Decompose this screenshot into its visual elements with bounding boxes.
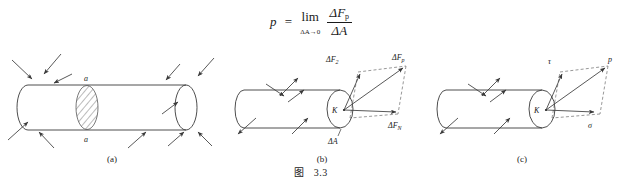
- force-normal-label-b: ΔFN: [387, 121, 403, 131]
- formula-variable: p: [270, 14, 277, 29]
- cross-section-hatched-a: [76, 86, 98, 130]
- panel-c-drawing: K τ p σ: [424, 52, 620, 152]
- numerator-subscript: p: [345, 12, 349, 21]
- force-parallel-label-b: ΔFp: [391, 53, 405, 63]
- area-label-b: ΔA: [327, 137, 338, 146]
- normal-stress-label-c: σ: [588, 121, 593, 130]
- panel-a-drawing: a a: [6, 52, 218, 152]
- section-label-top: a: [84, 74, 88, 83]
- panel-b-drawing: K ΔA ΔF2 ΔFp ΔFN: [222, 52, 422, 152]
- limit-subscript: ΔA→0: [300, 28, 320, 36]
- shear-stress-label-c: τ: [548, 57, 552, 66]
- numerator-symbol: ΔF: [330, 5, 346, 20]
- vector-resultant-stress-c: [546, 68, 605, 110]
- panel-a: a a (a): [6, 52, 218, 164]
- vector-normal-b: [344, 110, 396, 112]
- figure-page: p = lim ΔA→0 ΔFp ΔA: [0, 0, 622, 188]
- force-arrows-c: [440, 78, 510, 134]
- fraction-denominator: ΔA: [327, 23, 353, 39]
- panel-a-caption: (a): [6, 154, 218, 164]
- area-leader-line-b: [338, 129, 341, 136]
- point-label-k-c: K: [533, 106, 540, 115]
- limit-operator: lim ΔA→0: [300, 10, 320, 36]
- force-arrows-b: [238, 78, 308, 134]
- formula-fraction: ΔFp ΔA: [327, 6, 353, 39]
- panel-b: K ΔA ΔF2 ΔFp ΔFN: [222, 52, 422, 164]
- vector-resultant-b: [344, 68, 403, 110]
- resultant-stress-label-c: p: [607, 55, 612, 64]
- fraction-numerator: ΔFp: [327, 6, 353, 23]
- force-arrows-a: [8, 54, 214, 148]
- panel-c-caption: (c): [424, 154, 620, 164]
- formula-equals: =: [285, 14, 292, 29]
- panel-b-caption: (b): [222, 154, 422, 164]
- force-total-label-b: ΔF2: [325, 55, 339, 65]
- limit-lim: lim: [302, 9, 319, 24]
- figure-caption-prefix: 图: [294, 167, 305, 178]
- section-label-bottom: a: [84, 135, 88, 144]
- point-label-k-b: K: [331, 106, 338, 115]
- figure-caption: 图3.3: [0, 164, 622, 179]
- panel-c: K τ p σ: [424, 52, 620, 164]
- pressure-limit-formula: p = lim ΔA→0 ΔFp ΔA: [0, 6, 622, 39]
- figure-caption-number: 3.3: [314, 167, 328, 178]
